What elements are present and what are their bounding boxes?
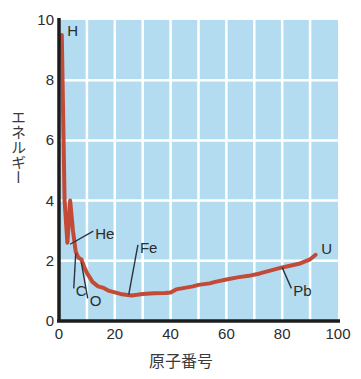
plot-area [0,0,361,379]
annotation-label-c: C [76,282,87,299]
x-tick-label: 80 [274,325,291,342]
x-tick-label: 20 [106,325,123,342]
annotation-label-pb: Pb [293,282,311,299]
chart-figure: エネルギー 0246810 HHeCOFePbU 020406080100 原子… [0,0,361,379]
x-tick-label: 0 [55,325,63,342]
annotation-label-h: H [67,22,78,39]
x-tick-label: 40 [162,325,179,342]
x-tick-label: 100 [325,325,350,342]
annotation-label-he: He [95,225,114,242]
annotation-label-o: O [90,292,102,309]
annotation-label-u: U [321,240,332,257]
annotation-label-fe: Fe [140,239,158,256]
x-tick-label: 60 [218,325,235,342]
x-axis-title: 原子番号 [0,348,361,372]
x-axis-tick-labels: 020406080100 [0,325,361,349]
